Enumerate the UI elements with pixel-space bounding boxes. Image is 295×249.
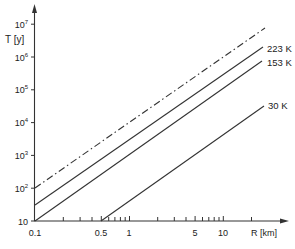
svg-text:104: 104 xyxy=(15,117,29,128)
svg-text:102: 102 xyxy=(15,183,29,194)
series-dash-dot-line xyxy=(35,28,265,188)
y-axis-label: T [y] xyxy=(5,34,24,45)
svg-text:103: 103 xyxy=(15,150,29,161)
svg-text:106: 106 xyxy=(15,52,29,63)
svg-text:0.5: 0.5 xyxy=(95,228,108,238)
svg-text:10: 10 xyxy=(218,228,228,238)
series-label-153k: 153 K xyxy=(267,57,292,68)
series-label-223k: 223 K xyxy=(267,43,292,54)
series-153k-line xyxy=(35,61,262,221)
series-30k-line xyxy=(101,106,264,221)
svg-text:5: 5 xyxy=(192,228,197,238)
svg-text:1: 1 xyxy=(126,228,131,238)
chart: 10 102 103 104 105 106 107 T [y] 0.1 0.5… xyxy=(0,0,295,249)
svg-text:105: 105 xyxy=(15,84,29,95)
x-axis xyxy=(35,219,290,224)
x-ticks xyxy=(63,216,251,221)
svg-text:107: 107 xyxy=(15,19,29,30)
series-label-30k: 30 K xyxy=(268,100,288,111)
x-tick-labels: 0.1 0.5 1 5 10 xyxy=(29,228,228,238)
series-223k-line xyxy=(35,47,263,205)
x-axis-label: R [km] xyxy=(251,228,277,238)
y-tick-labels: 10 102 103 104 105 106 107 xyxy=(15,19,29,227)
svg-text:0.1: 0.1 xyxy=(29,228,42,238)
svg-text:10: 10 xyxy=(18,217,28,227)
